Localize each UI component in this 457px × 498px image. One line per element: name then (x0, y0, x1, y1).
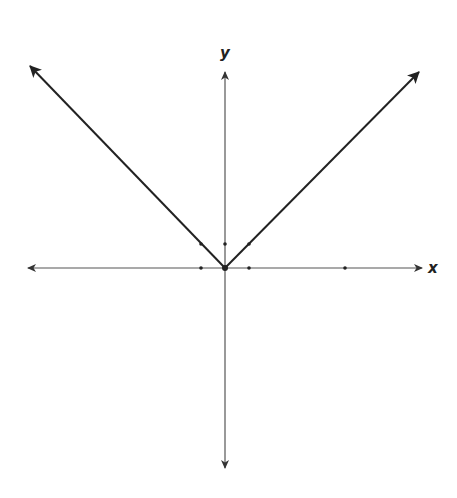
y-axis-label: y (220, 44, 230, 62)
marked-points (199, 242, 347, 271)
data-point (199, 242, 203, 246)
curve-left-branch (30, 66, 225, 268)
data-point (222, 265, 228, 271)
data-point (247, 266, 251, 270)
curve-right-branch (225, 72, 419, 268)
data-point (247, 242, 251, 246)
x-axis-label: x (428, 259, 438, 277)
data-point (223, 242, 227, 246)
data-point (199, 266, 203, 270)
coordinate-plane (0, 0, 457, 498)
data-point (343, 266, 347, 270)
